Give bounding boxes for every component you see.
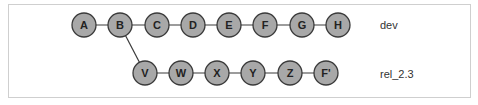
commit-label: V [141,67,149,79]
commit-node-G[interactable]: G [290,13,314,37]
commit-node-D[interactable]: D [181,13,205,37]
commit-label: Z [287,67,294,79]
branch-label-rel: rel_2.3 [380,68,414,80]
commit-node-V[interactable]: V [133,61,157,85]
commit-label: F [262,19,269,31]
commit-label: D [189,19,197,31]
commit-label: F' [321,67,331,79]
commit-label: H [334,19,342,31]
commit-label: A [80,19,88,31]
commit-label: C [153,19,161,31]
branch-label-dev: dev [380,19,398,31]
commit-node-W[interactable]: W [169,61,193,85]
commit-node-Y[interactable]: Y [241,61,265,85]
branch-diagram: A B C D E F G H [0,0,478,105]
commit-label: X [213,67,221,79]
commit-node-Z[interactable]: Z [278,61,302,85]
commit-label: W [176,67,187,79]
commit-node-A[interactable]: A [72,13,96,37]
commit-node-B[interactable]: B [108,13,132,37]
commit-label: B [116,19,124,31]
commit-label: G [298,19,307,31]
commit-node-X[interactable]: X [205,61,229,85]
commit-node-H[interactable]: H [326,13,350,37]
commit-label: Y [249,67,257,79]
commit-node-F-prime[interactable]: F' [314,61,338,85]
commit-node-E[interactable]: E [217,13,241,37]
commit-node-F[interactable]: F [253,13,277,37]
commit-label: E [225,19,232,31]
commit-node-C[interactable]: C [145,13,169,37]
